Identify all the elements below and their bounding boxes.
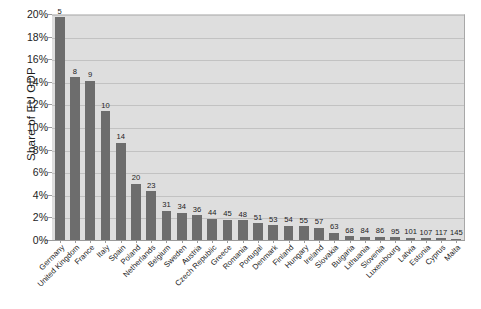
bar-slot[interactable]: 57: [314, 14, 324, 240]
bar-slot[interactable]: 48: [238, 14, 248, 240]
bar-value-label: 54: [284, 215, 292, 224]
bar[interactable]: [299, 226, 309, 240]
bar-value-label: 9: [88, 70, 92, 79]
bar-value-label: 10: [101, 101, 109, 110]
bar-value-label: 55: [300, 216, 308, 225]
bar-value-label: 86: [376, 226, 384, 235]
bar[interactable]: [162, 211, 172, 240]
bar-slot[interactable]: 107: [421, 14, 431, 240]
bar-slot[interactable]: 145: [451, 14, 461, 240]
x-axis-tickmark: [166, 240, 167, 243]
bar-value-label: 53: [269, 215, 277, 224]
bar-slot[interactable]: 44: [207, 14, 217, 240]
bar-value-label: 34: [177, 202, 185, 211]
bar-slot[interactable]: 10: [101, 14, 111, 240]
bar-series: 5891014202331343644454851535455576368848…: [52, 14, 464, 240]
bar-value-label: 45: [223, 209, 231, 218]
x-axis-line: [45, 240, 465, 241]
bar-chart: Share of EU GDP 0%2%4%6%8%10%12%14%16%18…: [0, 0, 481, 309]
y-axis-tick-label: 18%: [4, 31, 48, 43]
bar-value-label: 68: [345, 226, 353, 235]
y-axis-tick-label: 2%: [4, 211, 48, 223]
bar[interactable]: [70, 77, 80, 240]
bar[interactable]: [329, 233, 339, 240]
x-axis-tickmark: [105, 240, 106, 243]
bar-value-label: 51: [254, 213, 262, 222]
y-axis-tick-label: 20%: [4, 8, 48, 20]
y-axis-tick-label: 0%: [4, 234, 48, 246]
bar-value-label: 63: [330, 222, 338, 231]
y-axis-tick-label: 14%: [4, 76, 48, 88]
bar-slot[interactable]: 9: [85, 14, 95, 240]
bar-value-label: 84: [361, 226, 369, 235]
bar-value-label: 48: [238, 210, 246, 219]
y-axis-tick-label: 6%: [4, 166, 48, 178]
bar-slot[interactable]: 34: [177, 14, 187, 240]
bar[interactable]: [177, 213, 187, 240]
bar-slot[interactable]: 31: [162, 14, 172, 240]
bar-slot[interactable]: 84: [360, 14, 370, 240]
bar-slot[interactable]: 68: [345, 14, 355, 240]
bar-value-label: 20: [132, 173, 140, 182]
bar-value-label: 23: [147, 181, 155, 190]
bar-slot[interactable]: 45: [223, 14, 233, 240]
y-axis-tick-label: 12%: [4, 98, 48, 110]
x-axis-tickmark: [227, 240, 228, 243]
bar[interactable]: [101, 111, 111, 240]
y-axis-tickmark: [48, 240, 52, 241]
bar[interactable]: [55, 17, 65, 240]
bar[interactable]: [238, 220, 248, 240]
bar[interactable]: [223, 220, 233, 240]
bar-value-label: 95: [391, 227, 399, 236]
bar-slot[interactable]: 95: [390, 14, 400, 240]
bar[interactable]: [146, 191, 156, 240]
y-axis-tick-label: 10%: [4, 121, 48, 133]
bar[interactable]: [116, 143, 126, 240]
bar-slot[interactable]: 55: [299, 14, 309, 240]
bar-value-label: 101: [404, 227, 417, 236]
bar-slot[interactable]: 36: [192, 14, 202, 240]
bar-slot[interactable]: 8: [70, 14, 80, 240]
bar-slot[interactable]: 14: [116, 14, 126, 240]
bar-slot[interactable]: 5: [55, 14, 65, 240]
bar-value-label: 145: [450, 228, 463, 237]
bar-slot[interactable]: 86: [375, 14, 385, 240]
bar-value-label: 107: [420, 228, 433, 237]
y-axis-tick-label: 8%: [4, 144, 48, 156]
bar-value-label: 57: [315, 217, 323, 226]
bar[interactable]: [131, 184, 141, 241]
bar[interactable]: [85, 81, 95, 240]
bar-value-label: 14: [116, 132, 124, 141]
bar-value-label: 5: [57, 7, 61, 16]
y-axis-tick-label: 4%: [4, 189, 48, 201]
bar-value-label: 36: [193, 205, 201, 214]
bar[interactable]: [207, 219, 217, 240]
bar-slot[interactable]: 63: [329, 14, 339, 240]
y-axis-tick-label: 16%: [4, 53, 48, 65]
bar-slot[interactable]: 23: [146, 14, 156, 240]
bar[interactable]: [268, 225, 278, 240]
bar-slot[interactable]: 51: [253, 14, 263, 240]
bar[interactable]: [284, 226, 294, 240]
bar-value-label: 44: [208, 208, 216, 217]
bar-slot[interactable]: 101: [406, 14, 416, 240]
bar-slot[interactable]: 53: [268, 14, 278, 240]
bar-slot[interactable]: 117: [436, 14, 446, 240]
bar[interactable]: [192, 215, 202, 240]
x-axis-labels: GermanyUnited KingdomFranceItalySpainPol…: [52, 243, 464, 309]
bar[interactable]: [314, 228, 324, 240]
bar-value-label: 8: [73, 67, 77, 76]
bar[interactable]: [253, 223, 263, 240]
bar-value-label: 31: [162, 200, 170, 209]
bar-slot[interactable]: 54: [284, 14, 294, 240]
bar-value-label: 117: [435, 228, 447, 237]
bar-slot[interactable]: 20: [131, 14, 141, 240]
